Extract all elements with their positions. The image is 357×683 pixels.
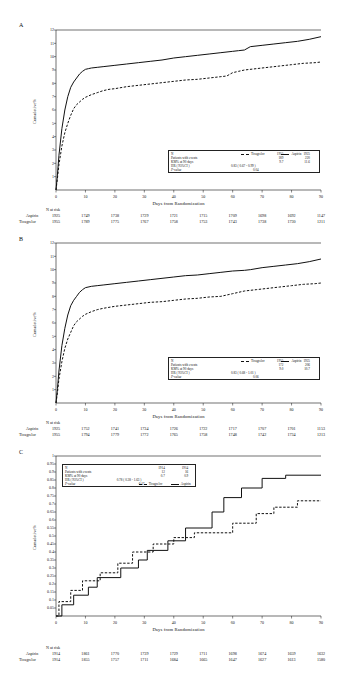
legend-km-ticagrelor: 9.7: [261, 160, 283, 164]
y-tick-label: 6: [39, 320, 54, 325]
y-tick-label: 0.1: [39, 597, 54, 602]
y-tick-label: 12: [39, 240, 54, 245]
n-at-risk-cell: 1752: [76, 426, 94, 431]
n-at-risk-cell: 1580: [312, 657, 330, 662]
n-at-risk-cell: 1647: [224, 657, 242, 662]
n-at-risk-cell: 1701: [283, 426, 301, 431]
n-at-risk-cell: 1914: [47, 657, 65, 662]
n-at-risk-cell: 1743: [224, 219, 242, 224]
y-tick-label: 3: [39, 360, 54, 365]
n-at-risk-cell: 1861: [76, 651, 94, 656]
x-tick-label: 40: [168, 407, 180, 412]
y-tick-label: 0.4: [39, 549, 54, 554]
x-axis-title: Days from Randomization: [0, 201, 357, 206]
legend-ticagrelor-line: [241, 154, 249, 155]
y-tick-label: 9: [39, 280, 54, 285]
n-at-risk-cell: 1955: [47, 219, 65, 224]
x-tick-label: 70: [256, 620, 268, 625]
n-at-risk-cell: 1730: [283, 219, 301, 224]
n-at-risk-header: N at risk: [46, 420, 60, 425]
n-at-risk-row-label-aspirin: Aspirin: [26, 213, 38, 218]
n-at-risk-cell: 1726: [165, 426, 183, 431]
x-tick-label: 70: [256, 194, 268, 199]
n-at-risk-cell: 1153: [312, 426, 330, 431]
y-tick-label: 0.7: [39, 501, 54, 506]
x-tick-label: 0: [50, 194, 62, 199]
n-at-risk-cell: 1729: [135, 213, 153, 218]
y-tick-label: 7: [39, 94, 54, 99]
n-at-risk-cell: 1715: [194, 213, 212, 218]
y-tick-label: 1: [39, 387, 54, 392]
y-tick-label: 8: [39, 81, 54, 86]
n-at-risk-row-label-ticagrelor: Ticagrelor: [19, 657, 36, 662]
y-tick-label: 0.5: [39, 533, 54, 538]
n-at-risk-cell: 1665: [194, 657, 212, 662]
n-at-risk-cell: 1739: [135, 651, 153, 656]
legend-row-pvalue: P-value: [171, 375, 181, 379]
y-tick-label: 0.55: [39, 525, 54, 530]
n-at-risk-cell: 1147: [312, 213, 330, 218]
legend-km-ticagrelor: 0.7: [143, 474, 165, 478]
x-tick-label: 30: [138, 194, 150, 199]
n-at-risk-row-label-aspirin: Aspirin: [26, 651, 38, 656]
y-tick-label: 0.2: [39, 581, 54, 586]
legend-km-aspirin: 11.6: [288, 160, 310, 164]
n-at-risk-header: N at risk: [46, 207, 60, 212]
curve-aspirin: [56, 475, 321, 616]
y-tick-label: 5: [39, 121, 54, 126]
n-at-risk-cell: 1738: [253, 219, 271, 224]
x-axis-title: Days from Randomization: [0, 627, 357, 632]
x-tick-label: 60: [227, 620, 239, 625]
n-at-risk-cell: 1794: [76, 432, 94, 437]
n-at-risk-cell: 1925: [47, 213, 65, 218]
legend-km-aspirin: 0.9: [166, 474, 188, 478]
y-tick-label: 0.35: [39, 557, 54, 562]
n-at-risk-cell: 1757: [106, 657, 124, 662]
x-tick-label: 80: [286, 194, 298, 199]
y-tick-label: 1: [39, 174, 54, 179]
n-at-risk-cell: 1753: [194, 219, 212, 224]
curve-ticagrelor: [56, 283, 321, 403]
n-at-risk-cell: 1758: [165, 219, 183, 224]
x-tick-label: 80: [286, 620, 298, 625]
y-tick-label: 4: [39, 134, 54, 139]
y-tick-label: 10: [39, 267, 54, 272]
y-tick-label: 10: [39, 54, 54, 59]
legend-km-aspirin: 10.7: [288, 367, 310, 371]
y-tick-label: 0.45: [39, 541, 54, 546]
n-at-risk-cell: 1738: [106, 213, 124, 218]
x-tick-label: 90: [315, 407, 327, 412]
y-tick-label: 0.25: [39, 573, 54, 578]
y-tick-label: 0.9: [39, 469, 54, 474]
y-tick-label: 11: [39, 254, 54, 259]
x-tick-label: 70: [256, 407, 268, 412]
x-tick-label: 20: [109, 194, 121, 199]
n-at-risk-cell: 1955: [47, 432, 65, 437]
x-tick-label: 90: [315, 620, 327, 625]
y-tick-label: 0.85: [39, 477, 54, 482]
x-tick-label: 60: [227, 407, 239, 412]
x-tick-label: 30: [138, 620, 150, 625]
y-tick-label: 0.3: [39, 565, 54, 570]
n-at-risk-cell: 1767: [135, 219, 153, 224]
n-at-risk-header: N at risk: [46, 645, 60, 650]
x-tick-label: 30: [138, 407, 150, 412]
n-at-risk-cell: 1717: [224, 426, 242, 431]
y-tick-label: 7: [39, 307, 54, 312]
n-at-risk-cell: 1925: [47, 426, 65, 431]
legend-pvalue-value: 0.06: [253, 375, 259, 379]
y-tick-label: 0.75: [39, 493, 54, 498]
y-tick-label: 6: [39, 107, 54, 112]
curve-ticagrelor: [56, 501, 321, 616]
y-tick-label: 0.15: [39, 589, 54, 594]
y-tick-label: 4: [39, 347, 54, 352]
n-at-risk-cell: 1659: [283, 651, 301, 656]
legend-km-ticagrelor: 9.0: [261, 367, 283, 371]
n-at-risk-cell: 1748: [224, 432, 242, 437]
n-at-risk-cell: 1789: [76, 219, 94, 224]
n-at-risk-row-label-ticagrelor: Ticagrelor: [19, 432, 36, 437]
y-tick-label: 0.95: [39, 461, 54, 466]
legend-ticagrelor-line: [241, 361, 249, 362]
n-at-risk-cell: 1698: [253, 213, 271, 218]
x-tick-label: 40: [168, 620, 180, 625]
